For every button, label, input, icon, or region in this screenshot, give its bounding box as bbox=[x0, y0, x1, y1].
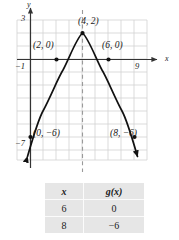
x-axis-label: x bbox=[165, 54, 169, 63]
table-row: 8 −6 bbox=[45, 217, 144, 234]
x-tick-label-neg1: −1 bbox=[15, 61, 25, 71]
table-header-x: x bbox=[45, 183, 84, 200]
y-axis-label: y bbox=[27, 0, 31, 9]
point-label-x-intercept-left: (2, 0) bbox=[33, 40, 54, 50]
table-cell-gx: 0 bbox=[84, 200, 145, 217]
value-table-container: x g(x) 6 0 8 −6 bbox=[45, 183, 143, 235]
table-cell-x: 6 bbox=[45, 200, 84, 217]
coordinate-plane-graph bbox=[0, 0, 179, 178]
table-header-gx: g(x) bbox=[84, 183, 145, 200]
table-header-row: x g(x) bbox=[45, 183, 144, 200]
point-label-vertex: (4, 2) bbox=[78, 16, 99, 26]
point-vertex-4-2 bbox=[80, 31, 84, 35]
point-label-x-intercept-right: (6, 0) bbox=[102, 40, 123, 50]
table-row: 6 0 bbox=[45, 200, 144, 217]
value-table: x g(x) 6 0 8 −6 bbox=[45, 183, 144, 233]
y-tick-label-3: 3 bbox=[21, 13, 25, 23]
point-0-neg6 bbox=[28, 135, 32, 139]
point-x-intercept-6-0 bbox=[106, 57, 110, 61]
axis-lines bbox=[17, 8, 157, 168]
point-label-left-endpoint: (0, −6) bbox=[33, 128, 60, 138]
table-cell-gx: −6 bbox=[84, 217, 145, 234]
x-tick-label-9: 9 bbox=[135, 61, 139, 71]
parabola-figure: (4, 2) (2, 0) (6, 0) (0, −6) (8, −6) 3 −… bbox=[0, 0, 179, 178]
point-x-intercept-2-0 bbox=[54, 57, 58, 61]
y-tick-label-neg7: −7 bbox=[15, 138, 25, 148]
point-label-right-endpoint: (8, −6) bbox=[110, 128, 137, 138]
table-cell-x: 8 bbox=[45, 217, 84, 234]
